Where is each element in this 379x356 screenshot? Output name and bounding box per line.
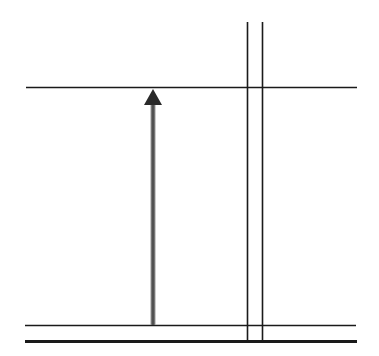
- vertical-lines: [248, 22, 263, 342]
- diagram-canvas: [0, 0, 379, 356]
- arrow-shaft: [151, 104, 156, 325]
- arrow-head: [144, 89, 162, 105]
- up-arrow-icon: [144, 89, 162, 325]
- horizontal-lines: [25, 88, 357, 342]
